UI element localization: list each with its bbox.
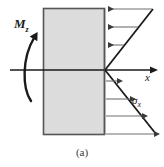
bending-stress-figure: Mz x σx (a) xyxy=(0,0,164,167)
figure-caption: (a) xyxy=(0,146,164,158)
stress-label: σx xyxy=(132,95,141,109)
sigma-subscript: x xyxy=(137,100,141,109)
cross-section-rectangle xyxy=(44,9,105,135)
moment-symbol: M xyxy=(14,16,26,31)
tension-stress-arrows xyxy=(106,81,154,134)
moment-label: Mz xyxy=(14,17,29,34)
moment-subscript: z xyxy=(26,25,29,34)
x-axis-label: x xyxy=(145,72,150,83)
